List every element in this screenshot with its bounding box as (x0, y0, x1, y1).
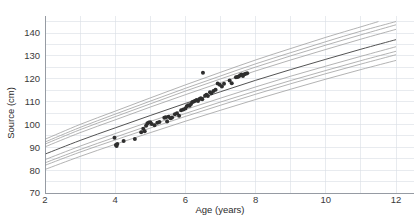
data-point (139, 130, 143, 134)
x-tick-label: 2 (42, 194, 47, 205)
growth-chart: 24681012 708090100110120130140 Age (year… (0, 0, 419, 223)
data-point (230, 81, 234, 85)
data-point (214, 88, 218, 92)
data-point (206, 94, 210, 98)
y-tick-labels: 708090100110120130140 (24, 27, 40, 198)
y-tick-label: 90 (29, 142, 40, 153)
data-point (222, 82, 226, 86)
data-point (200, 97, 204, 101)
data-point (170, 116, 174, 120)
y-axis-title: Source (cm) (5, 87, 16, 139)
y-tick-label: 100 (24, 119, 40, 130)
data-point (165, 119, 169, 123)
data-point (157, 120, 161, 124)
x-tick-label: 6 (183, 194, 188, 205)
data-point (122, 139, 126, 143)
y-tick-label: 70 (29, 187, 40, 198)
y-tick-label: 120 (24, 73, 40, 84)
axis-lines (45, 16, 414, 193)
data-point (143, 129, 147, 133)
data-point (113, 136, 117, 140)
y-tick-label: 80 (29, 165, 40, 176)
data-point (201, 71, 205, 75)
x-tick-label: 8 (253, 194, 258, 205)
x-gridlines (45, 16, 396, 193)
x-axis-title: Age (years) (195, 204, 244, 215)
data-point (115, 142, 119, 146)
data-point (177, 114, 181, 118)
chart-svg: 24681012 708090100110120130140 Age (year… (0, 0, 419, 223)
y-tick-label: 110 (25, 96, 40, 107)
y-tick-label: 130 (24, 50, 40, 61)
x-tick-label: 12 (391, 194, 402, 205)
x-tick-label: 10 (321, 194, 332, 205)
data-point (245, 71, 249, 75)
scatter-points (113, 71, 250, 148)
data-point (133, 137, 137, 141)
y-tick-label: 140 (24, 27, 40, 38)
x-tick-label: 4 (113, 194, 118, 205)
